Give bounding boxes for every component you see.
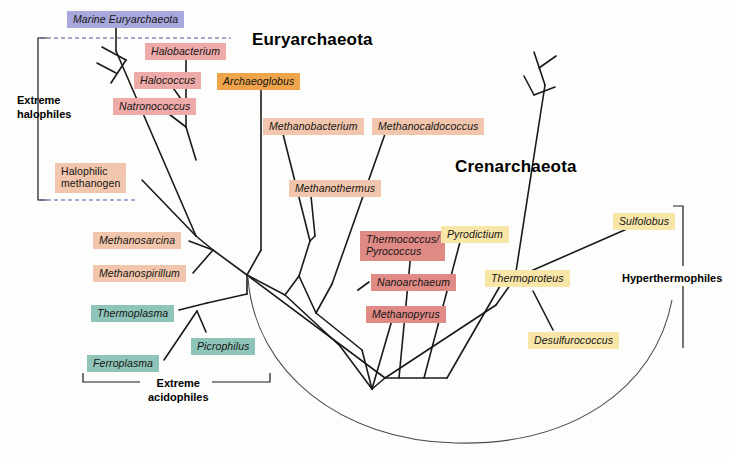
taxon-label-methanospirillum: Methanospirillum: [93, 265, 186, 282]
branch-methanothermus-join: [310, 236, 315, 241]
branch-marine-cren-c: [524, 76, 534, 95]
taxon-label-desulfurococcus: Desulfurococcus: [528, 332, 619, 349]
branch-methanobact-base: [285, 276, 299, 295]
branch-inner-f: [299, 276, 316, 313]
branch-nanoarchaeum: [358, 282, 369, 290]
branch-marine-eury-a: [102, 47, 126, 60]
branch-methanocaldococcus: [332, 134, 385, 284]
group-title-extreme-acidophiles: Extreme acidophiles: [148, 377, 209, 405]
branch-desulfurococcus: [533, 291, 553, 330]
branch-marine-cren-b: [539, 56, 556, 68]
group-title-hyperthermophiles: Hyperthermophiles: [622, 272, 722, 286]
phylogenetic-tree-figure: Euryarchaeota Crenarchaeota Extreme halo…: [0, 0, 730, 457]
branch-thermoplasma: [179, 303, 207, 310]
taxon-label-archaeoglobus: Archaeoglobus: [217, 73, 300, 90]
taxon-label-natronococcus: Natronococcus: [113, 98, 196, 115]
branch-picrophilus: [197, 311, 206, 332]
group-title-extreme-halophiles: Extreme halophiles: [17, 94, 71, 122]
taxon-label-ferroplasma: Ferroplasma: [87, 355, 159, 372]
branch-methanospirillum: [193, 250, 213, 273]
branch-marine-eury-b: [97, 63, 116, 73]
branch-backbone-eury2: [213, 250, 247, 275]
branch-inner-a: [285, 295, 340, 346]
taxon-label-pyrodictium: Pyrodictium: [441, 226, 509, 243]
taxon-label-thermoproteus: Thermoproteus: [485, 270, 570, 287]
branch-halophile-stem: [186, 127, 196, 160]
branch-halophilic-methanogen: [142, 180, 196, 236]
taxon-label-halophilic-methanogen: Halophilic methanogen: [55, 163, 126, 193]
branch-methanocaldococcus-base: [316, 284, 332, 313]
taxon-label-halobacterium: Halobacterium: [145, 43, 226, 60]
domain-title-euryarchaeota: Euryarchaeota: [252, 30, 373, 50]
taxon-label-methanobacterium: Methanobacterium: [263, 118, 364, 135]
branch-methanosarcina: [189, 241, 213, 250]
taxon-label-marine-euryarchaeota: Marine Euryarchaeota: [67, 11, 184, 28]
taxon-label-sulfolobus: Sulfolobus: [613, 213, 675, 230]
branch-backbone-eury: [247, 275, 385, 378]
taxon-label-methanocaldococcus: Methanocaldococcus: [372, 118, 484, 135]
taxon-label-picrophilus: Picrophilus: [191, 338, 255, 355]
taxon-label-thermoplasma: Thermoplasma: [91, 305, 174, 322]
taxon-label-methanosarcina: Methanosarcina: [93, 232, 181, 249]
taxon-label-nanoarchaeum: Nanoarchaeum: [371, 274, 456, 291]
branch-archaeoglobus-base: [247, 250, 261, 275]
branch-methanobact-stem: [299, 241, 310, 276]
branch-inner-e: [247, 275, 285, 295]
taxon-label-halococcus: Halococcus: [134, 72, 201, 89]
taxon-label-thermococcus-pyrococcus: Thermococcus/ Pyrococcus: [360, 231, 445, 261]
taxon-label-methanothermus: Methanothermus: [289, 180, 381, 197]
branch-methanothermus: [311, 196, 315, 236]
branch-marine-cren-stem: [515, 85, 545, 278]
branch-backbone-eury3: [196, 236, 213, 250]
taxon-label-methanopyrus: Methanopyrus: [366, 306, 446, 323]
domain-title-crenarchaeota: Crenarchaeota: [455, 157, 577, 177]
branch-acido-stem: [207, 294, 247, 303]
